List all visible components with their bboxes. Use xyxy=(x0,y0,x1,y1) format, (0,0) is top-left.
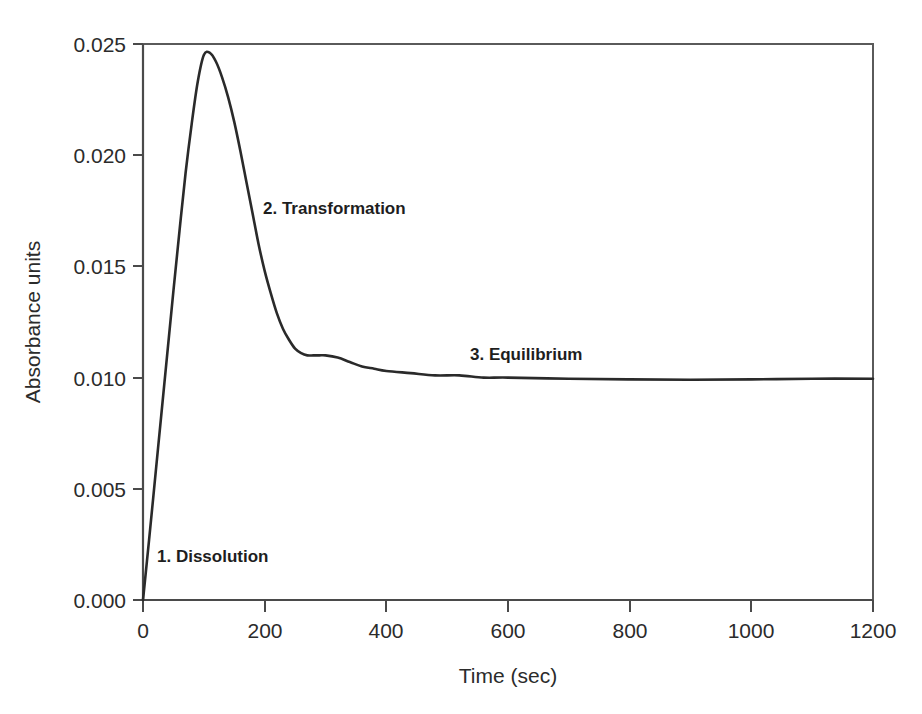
x-tick-label: 1000 xyxy=(728,619,775,642)
x-tick-label: 0 xyxy=(137,619,149,642)
chart-page: 0.025 0.020 0.015 0.010 0.005 0.000 0 20… xyxy=(0,0,922,714)
y-tick-label: 0.015 xyxy=(73,255,126,278)
annotation-equilibrium: 3. Equilibrium xyxy=(470,345,582,364)
y-tick-label: 0.010 xyxy=(73,367,126,390)
x-axis-title: Time (sec) xyxy=(459,664,557,687)
annotation-dissolution: 1. Dissolution xyxy=(157,547,268,566)
y-axis-title: Absorbance units xyxy=(21,241,44,403)
x-tick-label: 200 xyxy=(247,619,282,642)
y-tick-label: 0.020 xyxy=(73,144,126,167)
y-tick-label: 0.025 xyxy=(73,33,126,56)
y-tick-label: 0.000 xyxy=(73,589,126,612)
annotation-transformation: 2. Transformation xyxy=(263,199,406,218)
x-tick-label: 800 xyxy=(612,619,647,642)
chart-background xyxy=(0,0,922,714)
x-tick-label: 600 xyxy=(490,619,525,642)
y-tick-label: 0.005 xyxy=(73,478,126,501)
x-tick-label: 1200 xyxy=(850,619,897,642)
absorbance-time-chart: 0.025 0.020 0.015 0.010 0.005 0.000 0 20… xyxy=(0,0,922,714)
x-tick-label: 400 xyxy=(368,619,403,642)
